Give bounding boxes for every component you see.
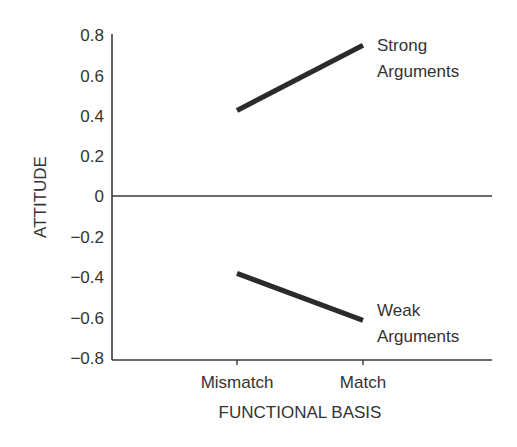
series-label-line: Arguments: [377, 327, 459, 346]
series-label-weak-arguments: Weak Arguments: [377, 301, 459, 346]
y-tick-label: 0.8: [80, 26, 104, 45]
series-label-line: Weak: [377, 301, 421, 320]
series-line-strong-arguments: [237, 45, 363, 110]
series-line-weak-arguments: [237, 273, 363, 320]
series-label-line: Strong: [377, 36, 427, 55]
series-label-line: Arguments: [377, 62, 459, 81]
chart: 0.8 0.6 0.4 0.2 0 −0.2 −0.4 −0.6 −0.8 Mi…: [0, 0, 517, 447]
y-tick-label: −0.2: [70, 228, 104, 247]
series-label-strong-arguments: Strong Arguments: [377, 36, 459, 81]
y-tick-label: 0.4: [80, 107, 104, 126]
y-tick-labels: 0.8 0.6 0.4 0.2 0 −0.2 −0.4 −0.6 −0.8: [70, 26, 104, 368]
x-axis-title: FUNCTIONAL BASIS: [219, 403, 382, 422]
y-tick-label: −0.4: [70, 268, 104, 287]
y-tick-label: −0.6: [70, 309, 104, 328]
x-tick-label-mismatch: Mismatch: [201, 373, 274, 392]
x-tick-label-match: Match: [340, 373, 386, 392]
y-tick-label: 0: [95, 187, 104, 206]
y-tick-label: 0.6: [80, 67, 104, 86]
y-axis-title: ATTITUDE: [31, 156, 50, 238]
y-tick-label: 0.2: [80, 147, 104, 166]
y-tick-label: −0.8: [70, 349, 104, 368]
